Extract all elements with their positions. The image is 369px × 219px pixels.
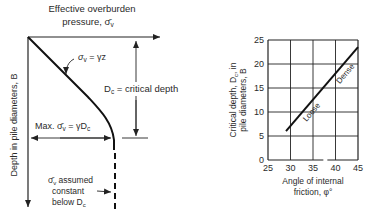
top-axis-label-line1: Effective overburden: [49, 3, 136, 14]
y-tick-label: 25: [254, 35, 264, 45]
x-tick-labels: 2530354045: [263, 163, 363, 173]
x-tick-label: 40: [330, 163, 340, 173]
chart-grid: [268, 40, 358, 163]
y-tick-label: 15: [254, 83, 264, 93]
x-tick-label: 35: [308, 163, 318, 173]
linear-equation-leader-arrow: [66, 59, 74, 74]
y-tick-label: 0: [259, 155, 264, 165]
depth-axis-label: Depth in pile diameters, B: [9, 73, 19, 176]
y-tick-label: 5: [259, 131, 264, 141]
critical-depth-chart: 2530354045 0510152025 LooseDense Critica…: [228, 35, 363, 197]
annotation-dense: Dense: [334, 62, 356, 86]
max-pressure-label: Max. σ̄v = γDc: [35, 121, 91, 132]
series-line: [286, 47, 358, 131]
y-axis-label-line2: pile diameters, B: [238, 68, 248, 132]
y-tick-label: 10: [254, 107, 264, 117]
linear-equation-label: σv = γz: [78, 52, 106, 63]
constant-note-arrow: [97, 191, 111, 192]
x-axis-break: [323, 158, 327, 163]
top-axis-label-line2: pressure, σ̄v: [62, 16, 114, 28]
x-tick-label: 45: [353, 163, 363, 173]
chart-series: LooseDense: [286, 47, 358, 131]
x-tick-label: 25: [263, 163, 273, 173]
y-tick-labels: 0510152025: [254, 35, 264, 165]
constant-note-line2: constant: [52, 186, 85, 196]
figure: Effective overburden pressure, σ̄v Depth…: [0, 0, 369, 219]
constant-note-line1: σ̄v assumed: [48, 175, 93, 186]
x-tick-label: 30: [285, 163, 295, 173]
constant-note-line3: below Dc: [52, 197, 86, 208]
x-axis-label-line2: friction, φ°: [294, 187, 333, 197]
critical-depth-label: Dc = critical depth: [104, 83, 178, 95]
y-tick-label: 20: [254, 59, 264, 69]
x-axis-label-line1: Angle of internal: [282, 176, 344, 186]
pressure-depth-diagram: Effective overburden pressure, σ̄v Depth…: [9, 3, 186, 212]
